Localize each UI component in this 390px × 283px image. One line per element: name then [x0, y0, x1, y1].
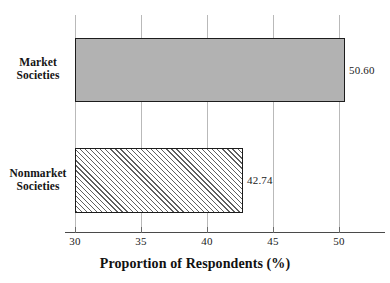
bar-market-societies[interactable] — [75, 38, 345, 102]
category-label-line2: Societies — [2, 69, 74, 82]
category-label-market-societies: Market Societies — [2, 56, 74, 82]
category-label-line2: Societies — [2, 180, 74, 193]
category-label-line1: Nonmarket — [2, 167, 74, 180]
x-tick-40 — [207, 227, 208, 233]
value-label-nonmarket-societies: 42.74 — [247, 174, 273, 186]
x-tick-label-30: 30 — [55, 235, 95, 247]
category-label-nonmarket-societies: Nonmarket Societies — [2, 167, 74, 193]
x-tick-label-40: 40 — [187, 235, 227, 247]
x-tick-30 — [75, 227, 76, 233]
x-tick-label-45: 45 — [253, 235, 293, 247]
x-tick-35 — [141, 227, 142, 233]
bar-chart: 50.60 42.74 Market Societies Nonmarket S… — [0, 0, 390, 283]
x-axis-title: Proportion of Respondents (%) — [0, 256, 390, 272]
x-tick-label-35: 35 — [121, 235, 161, 247]
category-label-line1: Market — [2, 56, 74, 69]
x-tick-label-50: 50 — [319, 235, 359, 247]
x-tick-45 — [273, 227, 274, 233]
x-tick-50 — [339, 227, 340, 233]
bar-nonmarket-societies[interactable] — [75, 148, 243, 213]
value-label-market-societies: 50.60 — [349, 64, 375, 76]
x-axis-line — [65, 232, 385, 233]
